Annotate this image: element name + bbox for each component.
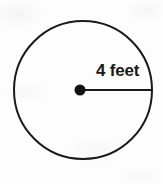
- radius-measurement-label: 4 feet: [96, 62, 139, 79]
- circle-radius-diagram: 4 feet: [0, 0, 163, 184]
- geometry-figure-svg: [0, 0, 163, 184]
- center-point-dot: [75, 85, 86, 96]
